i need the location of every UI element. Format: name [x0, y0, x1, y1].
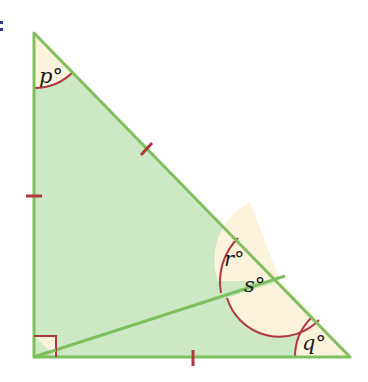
angle-label-p: p°	[39, 64, 63, 88]
triangle-diagram: p° q° r° s°	[0, 0, 368, 382]
angle-label-r: r°	[224, 247, 245, 271]
angle-label-s: s°	[244, 273, 265, 297]
angle-label-q: q°	[302, 331, 326, 355]
corner-text-fragment	[0, 21, 3, 31]
